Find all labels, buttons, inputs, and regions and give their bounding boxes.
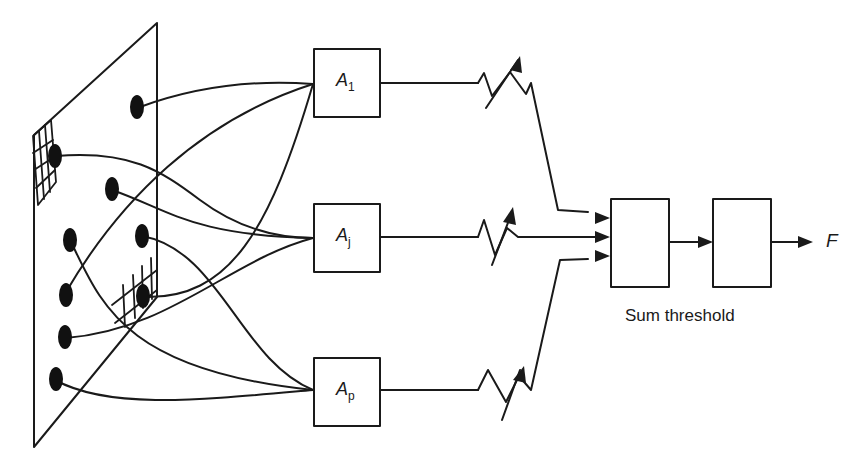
sum-box [611,199,669,287]
variable-resistor-1 [478,60,588,212]
connections-a1 [66,83,313,297]
ap-label: Ap [336,379,355,403]
a1-label: A1 [336,70,355,94]
arrowheads [503,56,813,383]
diagram-graphics [0,0,864,464]
perceptron-diagram: A1 Aj Ap Sum threshold F [0,0,864,464]
threshold-box [713,199,771,287]
aj-label: Aj [336,225,351,249]
output-label: F [826,230,838,252]
sum-threshold-caption: Sum threshold [625,306,735,326]
variable-resistor-j [478,212,600,265]
variable-resistor-p [478,259,588,420]
